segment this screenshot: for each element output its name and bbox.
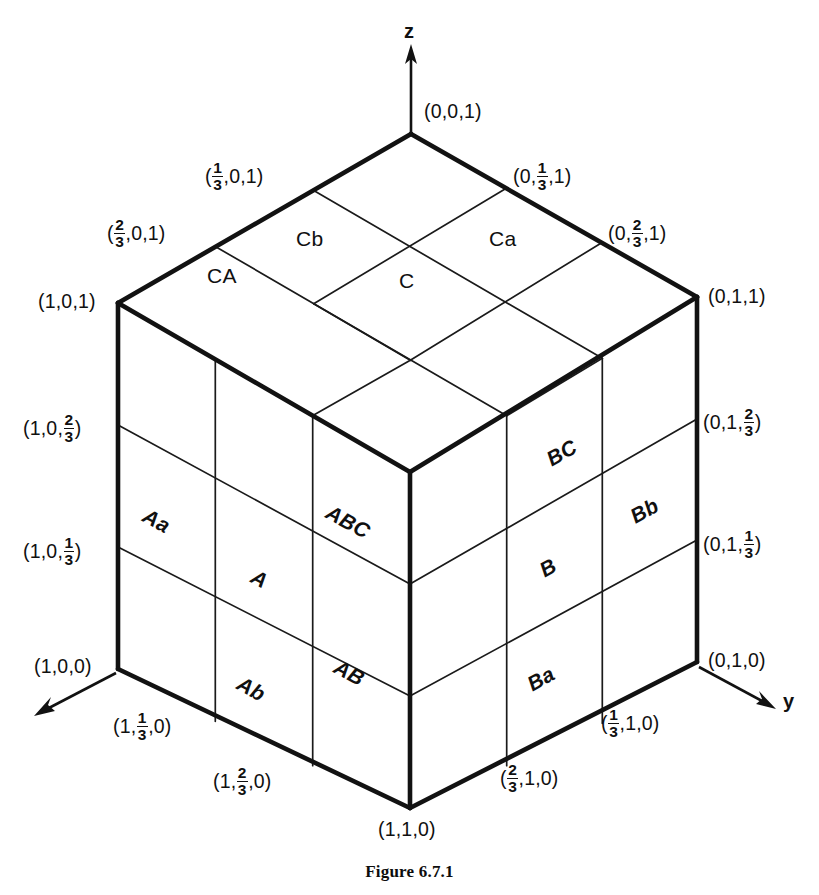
fraction-one-third: 1 3 [744,528,755,561]
coord-label-x-two-third-1-0: ( 2 3 ,1,0) [500,762,559,795]
coord-label-1-y-one-third-0: (1, 1 3 ,0) [113,710,172,743]
coord-label-1-0-0: (1,0,0) [34,657,92,677]
region-label-C: C [399,270,415,291]
fraction-two-thirds: 2 3 [507,762,518,795]
figure-caption: Figure 6.7.1 [0,862,819,882]
region-label-CA: CA [207,265,237,286]
fraction-two-thirds: 2 3 [744,406,755,439]
y-axis-line [699,667,764,702]
fraction-two-thirds: 2 3 [237,765,248,798]
coord-label-0-1-0: (0,1,0) [708,651,766,671]
coord-label-x-one-third-0-1: ( 1 3 ,0,1) [205,160,264,193]
fraction-two-thirds: 2 3 [632,217,643,250]
region-label-Ca: Ca [489,228,517,249]
coord-label-x-one-third-1-0: ( 1 3 ,1,0) [601,707,660,740]
isometric-cube-diagram [0,0,819,895]
x-axis-line [47,673,116,709]
figure-root: z y (0,0,1) ( 1 3 ,0,1) (0, 1 3 ,1) ( 2 … [0,0,819,895]
region-label-Cb: Cb [296,228,324,249]
fraction-one-third: 1 3 [212,160,223,193]
coord-label-1-0-z-one-third: (1,0, 1 3 ) [23,535,82,568]
coord-label-1-0-1: (1,0,1) [38,292,96,312]
fraction-one-third: 1 3 [608,707,619,740]
coord-label-0-0-1: (0,0,1) [424,102,482,122]
fraction-one-third: 1 3 [137,710,148,743]
fraction-two-thirds: 2 3 [114,217,125,250]
z-axis-label: z [404,20,414,43]
fraction-one-third: 1 3 [64,535,75,568]
coord-label-0-1-z-one-third: (0,1, 1 3 ) [703,528,762,561]
coord-label-1-1-0: (1,1,0) [378,820,436,840]
fraction-two-thirds: 2 3 [64,412,75,445]
coord-label-1-0-z-two-third: (1,0, 2 3 ) [23,412,82,445]
coord-label-0-1-z-two-third: (0,1, 2 3 ) [703,406,762,439]
coord-label-0-1-1: (0,1,1) [708,287,766,307]
coord-label-x-two-third-0-1: ( 2 3 ,0,1) [107,217,166,250]
y-axis-label: y [783,690,794,713]
coord-label-0-y-two-third-1: (0, 2 3 ,1) [608,217,667,250]
coord-label-0-y-one-third-1: (0, 1 3 ,1) [513,160,572,193]
fraction-one-third: 1 3 [537,160,548,193]
coord-label-1-y-two-third-0: (1, 2 3 ,0) [213,765,272,798]
